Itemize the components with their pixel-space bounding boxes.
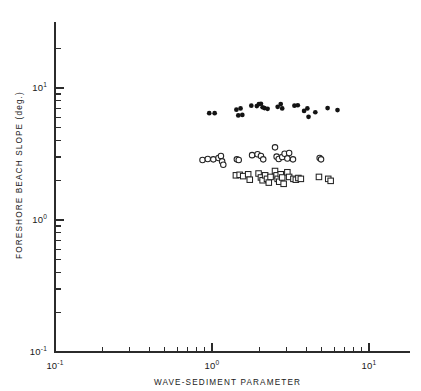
figure-container: 10-110010110-1100101 WAVE-SEDIMENT PARAM…	[0, 0, 421, 391]
data-point-open-square	[247, 177, 253, 183]
data-point-filled-circle	[240, 113, 245, 118]
data-point-filled-circle	[325, 106, 330, 111]
x-tick-label: 100	[205, 359, 220, 371]
data-point-filled-circle	[280, 106, 285, 111]
series-filled-circles	[207, 101, 340, 119]
axis-tick-labels: 10-110010110-1100101	[30, 81, 377, 371]
scatter-plot: 10-110010110-1100101 WAVE-SEDIMENT PARAM…	[0, 0, 421, 391]
data-point-filled-circle	[212, 111, 217, 116]
y-tick-label: 100	[32, 213, 47, 225]
data-point-filled-circle	[265, 107, 270, 112]
data-point-open-circle	[249, 152, 255, 158]
data-point-filled-circle	[305, 106, 310, 111]
axis-ticks	[55, 48, 369, 352]
y-tick-label: 101	[32, 81, 47, 93]
data-point-filled-circle	[234, 107, 239, 112]
data-point-open-square	[316, 174, 322, 180]
series-open-squares	[233, 168, 333, 186]
y-axis-title: FORESHORE BEACH SLOPE (deg.)	[15, 91, 24, 259]
data-point-open-square	[279, 175, 285, 181]
data-point-open-circle	[290, 157, 296, 163]
data-point-filled-circle	[295, 103, 300, 108]
data-point-open-circle	[285, 156, 291, 162]
data-point-filled-circle	[335, 108, 340, 113]
axis-titles: WAVE-SEDIMENT PARAMETERFORESHORE BEACH S…	[15, 91, 301, 387]
series-open-circles	[200, 145, 324, 168]
data-point-open-square	[245, 172, 251, 178]
data-point-filled-circle	[249, 103, 254, 108]
y-tick-label: 10-1	[30, 345, 47, 357]
data-point-open-circle	[236, 157, 242, 163]
axis-spine	[55, 22, 410, 352]
data-point-filled-circle	[236, 113, 241, 118]
data-point-open-circle	[286, 150, 292, 156]
axes	[55, 22, 410, 352]
x-tick-label: 10-1	[46, 359, 63, 371]
data-point-open-square	[266, 180, 272, 186]
data-point-filled-circle	[306, 114, 311, 119]
data-point-open-circle	[205, 156, 211, 162]
data-point-open-circle	[260, 157, 266, 163]
data-point-open-circle	[218, 153, 224, 159]
x-tick-label: 101	[362, 359, 377, 371]
data-point-open-square	[268, 174, 274, 180]
data-point-filled-circle	[238, 106, 243, 111]
data-point-open-square	[298, 176, 304, 182]
data-point-open-square	[328, 178, 334, 184]
data-points	[200, 101, 340, 186]
data-point-filled-circle	[278, 102, 283, 107]
data-point-open-circle	[221, 162, 227, 168]
data-point-open-circle	[272, 145, 278, 151]
data-point-open-circle	[318, 157, 324, 163]
data-point-filled-circle	[207, 111, 212, 116]
data-point-filled-circle	[313, 110, 318, 115]
x-axis-title: WAVE-SEDIMENT PARAMETER	[154, 378, 301, 387]
data-point-open-square	[281, 181, 287, 187]
data-point-open-circle	[200, 157, 206, 163]
